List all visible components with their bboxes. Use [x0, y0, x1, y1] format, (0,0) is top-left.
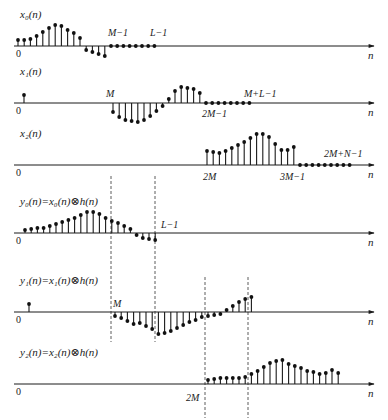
stem-marker [231, 304, 235, 308]
axis-label-n: n [368, 106, 374, 118]
stem-marker [167, 97, 171, 101]
stem-marker [229, 101, 233, 105]
stem-marker [115, 44, 119, 48]
stem-marker [134, 44, 138, 48]
stem-marker [206, 314, 210, 318]
stem-marker [135, 233, 139, 237]
stem-marker [144, 324, 148, 328]
stem-marker [117, 115, 121, 119]
stem-marker [169, 329, 173, 333]
stem-marker [224, 149, 228, 153]
stem-marker [66, 28, 70, 32]
tick-label: M−1 [107, 27, 128, 38]
stem-marker [181, 323, 185, 327]
stem-marker [267, 135, 271, 139]
stem-marker [204, 101, 208, 105]
stem-marker [243, 297, 247, 301]
stem-marker [161, 104, 165, 108]
stem-marker [104, 216, 108, 220]
stem-marker [124, 118, 128, 122]
stem-marker [249, 136, 253, 140]
stem-marker [242, 140, 246, 144]
stem-marker [72, 31, 76, 35]
stem-marker [287, 362, 291, 366]
tick-label: L−1 [160, 219, 178, 230]
axis-label-n: n [368, 168, 374, 180]
overlap-add-convolution-diagram: x₀(n)0nM−1L−1x₁(n)0nM2M−1M+L−1x₂(n)0n2M3… [0, 0, 388, 420]
stem-marker [175, 326, 179, 330]
stem-marker [23, 228, 27, 232]
stem-marker [29, 227, 33, 231]
tick-label: 2M [186, 392, 200, 403]
stem-marker [128, 44, 132, 48]
stem-marker [198, 91, 202, 95]
stem-marker [292, 145, 296, 149]
stem-marker [324, 371, 328, 375]
stem-marker [311, 163, 315, 167]
stem-marker [147, 237, 151, 241]
stem-marker [97, 52, 101, 56]
tick-label: 3M−1 [279, 171, 305, 182]
panel-title: y₁(n)=x₁(n)⊗h(n) [19, 274, 98, 287]
origin-label: 0 [16, 314, 21, 325]
stem-marker [79, 213, 83, 217]
stem-marker [237, 376, 241, 380]
stem-marker [342, 163, 346, 167]
stem-marker [113, 314, 117, 318]
panel-title: x₂(n) [19, 127, 42, 140]
panel-y0: y₀(n)=x₀(n)⊗h(n)0nL−1 [14, 195, 374, 248]
panel-x1: x₁(n)0nM2M−1M+L−1 [14, 65, 374, 124]
panel-y2: y₂(n)=x₂(n)⊗h(n)0n2M [14, 346, 374, 403]
tick-label: M+L−1 [243, 88, 276, 99]
stem-marker [138, 321, 142, 325]
stem-marker [126, 319, 130, 323]
stem-marker [73, 216, 77, 220]
stem-marker [186, 86, 190, 90]
stem-marker [212, 313, 216, 317]
stem-marker [268, 361, 272, 365]
stem-marker [163, 331, 167, 335]
stem-marker [274, 359, 278, 363]
stem-marker [153, 44, 157, 48]
stem-marker [225, 376, 229, 380]
stem-marker [223, 101, 227, 105]
stem-marker [188, 320, 192, 324]
stem-marker [119, 316, 123, 320]
stem-marker [194, 318, 198, 322]
stem-marker [304, 163, 308, 167]
stem-marker [85, 210, 89, 214]
stem-marker [35, 34, 39, 38]
stem-marker [140, 44, 144, 48]
stem-marker [250, 295, 254, 299]
stem-marker [286, 148, 290, 152]
origin-label: 0 [16, 48, 21, 59]
stem-marker [330, 368, 334, 372]
stem-marker [243, 375, 247, 379]
stem-marker [262, 365, 266, 369]
stem-marker [217, 101, 221, 105]
stem-marker [179, 85, 183, 89]
stem-marker [336, 371, 340, 375]
stem-marker [110, 219, 114, 223]
stem-marker [142, 118, 146, 122]
stem-marker [212, 377, 216, 381]
stem-marker [293, 364, 297, 368]
stem-marker [129, 227, 133, 231]
stem-marker [237, 300, 241, 304]
stem-marker [60, 220, 64, 224]
stem-marker [299, 366, 303, 370]
stem-marker [54, 222, 58, 226]
stem-marker [53, 23, 57, 27]
stem-marker [281, 358, 285, 362]
stem-marker [241, 101, 245, 105]
stem-marker [219, 312, 223, 316]
panel-title: y₀(n)=x₀(n)⊗h(n) [19, 195, 98, 208]
stem-marker [78, 36, 82, 40]
stem-marker [261, 132, 265, 136]
stem-marker [348, 163, 352, 167]
stem-marker [91, 50, 95, 54]
stem-marker [157, 332, 161, 336]
stem-marker [60, 24, 64, 28]
tick-label: L−1 [149, 27, 167, 38]
panel-y1: y₁(n)=x₁(n)⊗h(n)0nM [14, 274, 374, 336]
